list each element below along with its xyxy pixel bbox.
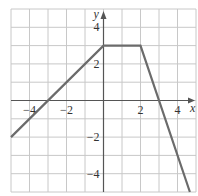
y-axis-label: y	[93, 7, 100, 21]
x-tick-label: −2	[60, 103, 73, 117]
x-axis-label: x	[189, 101, 196, 115]
x-tick-label: 2	[138, 103, 144, 117]
y-arrow-icon	[101, 11, 107, 19]
y-tick-label: 4	[94, 20, 100, 34]
y-tick-label: −2	[87, 130, 100, 144]
y-tick-label: −4	[87, 167, 100, 181]
x-tick-label: 4	[175, 103, 181, 117]
graph: −4−22442−2−4 x y	[0, 0, 198, 196]
y-tick-label: 2	[94, 57, 100, 71]
axes	[11, 11, 195, 192]
